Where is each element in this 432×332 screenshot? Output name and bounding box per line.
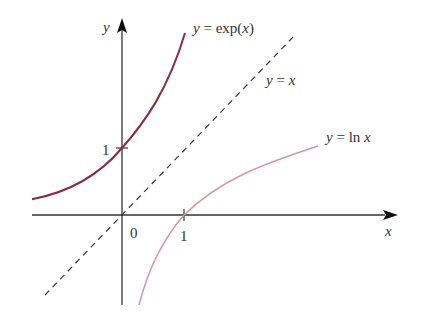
function-plot: y x 0 1 1 y = exp(x) y = x y = ln x [0, 0, 432, 332]
exp-label: y = exp(x) [191, 20, 254, 37]
ln-label: y = ln x [324, 129, 371, 145]
x-axis-arrow-icon [383, 210, 398, 220]
identity-label: y = x [264, 72, 296, 88]
x-axis-label: x [384, 223, 392, 239]
ln-curve [139, 146, 318, 305]
y-axis-label: y [101, 19, 110, 35]
origin-label: 0 [130, 225, 138, 241]
x-tick-label: 1 [180, 228, 188, 244]
exp-curve [32, 33, 185, 199]
y-tick-label: 1 [102, 142, 110, 158]
